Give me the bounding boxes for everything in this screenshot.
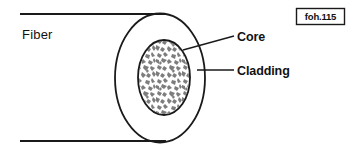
figure-canvas: Fiber Core Cladding foh.115 [0,0,355,155]
fiber-label: Fiber [22,27,53,42]
cladding-label: Cladding [237,64,290,78]
plate-code-box: foh.115 [297,9,345,25]
plate-code-text: foh.115 [305,11,337,22]
core-label: Core [237,30,265,44]
figure-optical-fiber-cross-section: Fiber Core Cladding foh.115 [0,0,355,155]
